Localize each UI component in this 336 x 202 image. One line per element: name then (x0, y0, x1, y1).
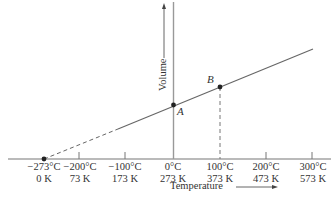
volume-arrow-head (162, 3, 166, 9)
point-a-label: A (177, 105, 184, 117)
point-b (218, 85, 223, 90)
tick-label-c: 0°C (165, 161, 181, 172)
point-b-label: B (207, 73, 214, 85)
extrapolated-line (44, 129, 118, 159)
x-ticks (79, 152, 312, 159)
tick-label-c: −100°C (109, 161, 142, 172)
temperature-arrow-head (272, 185, 278, 189)
tick-label-c: −273°C (28, 161, 61, 172)
tick-label-k: 573 K (300, 173, 326, 184)
tick-label-c: 200°C (253, 161, 280, 172)
point-a (171, 103, 176, 108)
tick-label-k: 73 K (70, 173, 91, 184)
data-line (118, 49, 313, 129)
tick-label-c: 300°C (300, 161, 327, 172)
tick-label-k: 273 K (160, 173, 186, 184)
tick-label-k: 473 K (253, 173, 279, 184)
tick-label-c: 100°C (207, 161, 234, 172)
tick-label-k: 373 K (207, 173, 233, 184)
tick-label-k: 173 K (112, 173, 138, 184)
tick-label-k: 0 K (36, 173, 51, 184)
tick-label-c: −200°C (64, 161, 97, 172)
y-axis-label: Volume (157, 59, 168, 91)
